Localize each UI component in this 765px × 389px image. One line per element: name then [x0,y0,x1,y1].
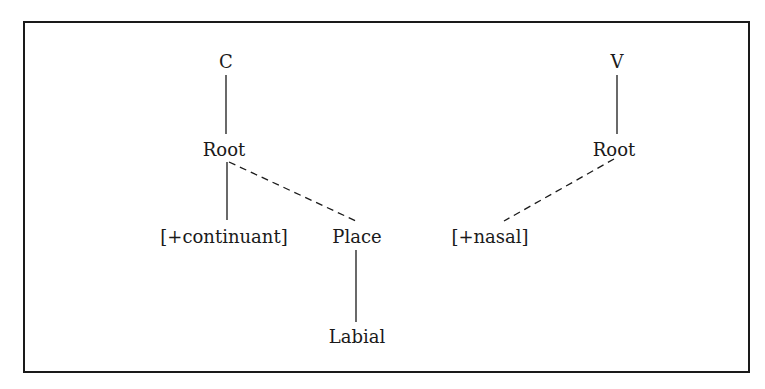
node-labial: Labial [329,326,386,347]
node-continuant: [+continuant] [160,226,287,247]
node-root-right: Root [593,139,636,160]
node-nasal: [+nasal] [451,226,528,247]
tree-diagram: C Root [+continuant] Place Labial V Root… [0,0,765,389]
edge-root-nasal-dashed [504,159,614,221]
node-c: C [219,51,233,72]
node-v: V [610,51,625,72]
node-root-left: Root [203,139,246,160]
edge-root-place-dashed [229,162,356,221]
node-place: Place [332,226,381,247]
